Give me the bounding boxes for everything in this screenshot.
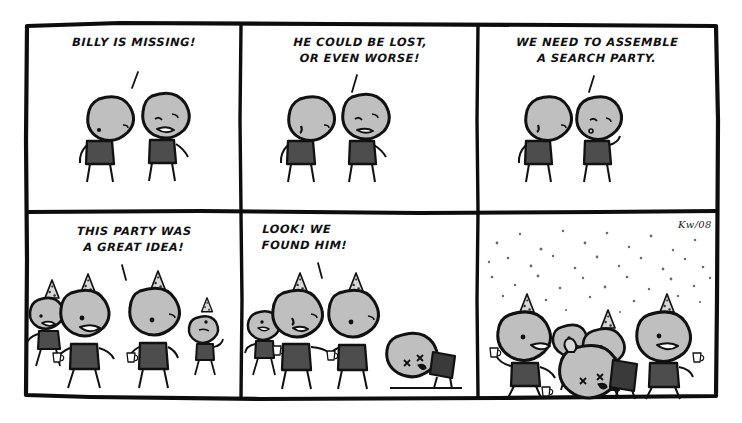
panel-3-caption: WE NEED TO ASSEMBLE A SEARCH PARTY.: [489, 35, 704, 66]
panel-5-caption: LOOK! WE FOUND HIM!: [261, 222, 462, 253]
panel-2-caption: HE COULD BE LOST, OR EVEN WORSE!: [253, 35, 466, 66]
artist-signature: Kw/08: [678, 219, 712, 230]
panel-1-caption: BILLY IS MISSING!: [36, 35, 233, 51]
panel-4-caption: THIS PARTY WAS A GREAT IDEA!: [37, 224, 230, 255]
comic-strip: BILLY IS MISSING! HE COULD BE LOST, OR E…: [0, 0, 742, 423]
